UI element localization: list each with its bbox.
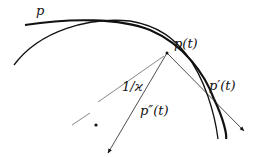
label-radius: 1/ϰ (122, 80, 143, 93)
center-point (94, 123, 97, 126)
curvature-diagram: p p(t) p′(t) p″(t) 1/ϰ (0, 0, 255, 157)
label-curve-p: p (36, 4, 44, 17)
label-point-pt: p(t) (174, 37, 198, 50)
curve-p-tail (214, 99, 226, 139)
label-tangent: p′(t) (209, 79, 236, 92)
radius-line-lower (72, 113, 90, 125)
point-pt (166, 52, 169, 55)
label-second-derivative: p″(t) (140, 104, 169, 117)
